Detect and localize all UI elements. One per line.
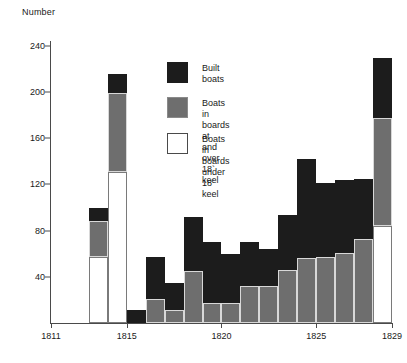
- bar-segment-over-1825: [297, 258, 316, 323]
- bar-segment-built-1814: [89, 208, 108, 222]
- bar-segment-built-1824: [278, 215, 297, 270]
- bar-segment-built-1816: [127, 310, 146, 323]
- bar-segment-over-1827: [335, 253, 354, 323]
- bar-segment-built-1829: [373, 58, 392, 118]
- bar-segment-built-1828: [354, 179, 373, 239]
- bar-segment-over-1828: [354, 239, 373, 323]
- bar-segment-over-1817: [146, 299, 165, 323]
- bar-segment-built-1819: [184, 217, 203, 271]
- bar-segment-over-1820: [203, 303, 222, 323]
- bar-segment-over-1815: [108, 93, 127, 171]
- legend-label-under-18-keel: Boats in boards under 18` keel: [202, 133, 230, 200]
- bar-segment-over-1826: [316, 257, 335, 323]
- bar-segment-over-1823: [259, 286, 278, 323]
- bar-segment-under-1829: [373, 226, 392, 323]
- bar-segment-built-1827: [335, 180, 354, 253]
- bar-segment-built-1815: [108, 74, 127, 94]
- bar-segment-over-1818: [165, 310, 184, 323]
- bar-segment-built-1825: [297, 159, 316, 258]
- bar-segment-over-1821: [221, 303, 240, 323]
- bar-segment-built-1822: [240, 242, 259, 286]
- bar-segment-under-1814: [89, 257, 108, 323]
- bar-segment-built-1820: [203, 242, 222, 303]
- bar-segment-over-1829: [373, 118, 392, 226]
- bar-segment-over-1819: [184, 271, 203, 323]
- bar-segment-built-1823: [259, 249, 278, 286]
- chart-container: Number 2402001601208040 1811181518201825…: [0, 0, 407, 363]
- legend-label-built-boats: Built boats: [202, 62, 224, 85]
- bar-segment-built-1818: [165, 283, 184, 311]
- legend-item-built: Built boats: [167, 62, 224, 85]
- legend-swatch-built-boats: [167, 62, 188, 83]
- bar-segment-built-1821: [221, 254, 240, 304]
- bar-segment-built-1826: [316, 183, 335, 257]
- bar-segment-under-1815: [108, 172, 127, 323]
- bar-segment-over-1822: [240, 286, 259, 323]
- bar-segment-over-1824: [278, 270, 297, 323]
- legend-swatch-under-18-keel: [167, 133, 188, 154]
- legend-item-under-18: Boats in boards under 18` keel: [167, 133, 230, 200]
- bar-segment-over-1814: [89, 221, 108, 257]
- legend-swatch-over-18-keel: [167, 97, 188, 118]
- bar-segment-built-1817: [146, 257, 165, 299]
